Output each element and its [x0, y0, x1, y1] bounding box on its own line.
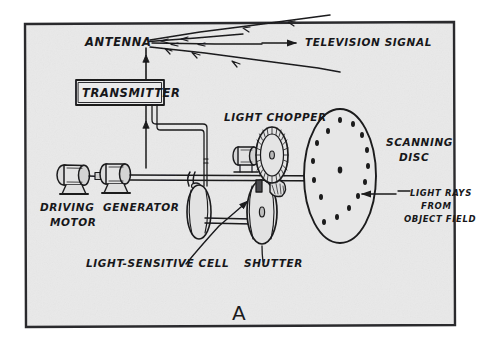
label-transmitter: TRANSMITTER [82, 86, 181, 100]
figure-panel: ANTENNA TELEVISION SIGNAL TRANSMITTER LI… [0, 0, 477, 350]
label-television-signal: TELEVISION SIGNAL [305, 36, 432, 48]
label-light-sensitive-cell: LIGHT-SENSITIVE CELL [86, 257, 229, 269]
label-shutter: SHUTTER [244, 257, 303, 269]
label-light-chopper: LIGHT CHOPPER [224, 111, 327, 123]
label-generator: GENERATOR [103, 201, 180, 213]
scanning-disc [304, 109, 376, 243]
label-light-rays-line2: FROM [421, 201, 451, 211]
label-driving-motor-line1: DRIVING [40, 201, 94, 213]
figure-caption-letter: A [232, 301, 246, 325]
label-scanning-disc-line1: SCANNING [386, 136, 453, 148]
label-driving-motor-line2: MOTOR [50, 216, 97, 228]
label-light-rays-line1: LIGHT RAYS [410, 188, 472, 198]
label-scanning-disc-line2: DISC [399, 151, 429, 163]
label-antenna: ANTENNA [84, 35, 152, 49]
label-light-rays-line3: OBJECT FIELD [404, 214, 476, 224]
